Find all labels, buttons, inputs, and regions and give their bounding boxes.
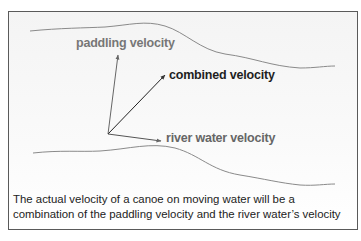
combined-velocity-arrow <box>108 75 165 134</box>
river-velocity-arrow <box>108 134 161 141</box>
river-water-velocity-label: river water velocity <box>166 131 275 145</box>
paddling-velocity-label: paddling velocity <box>76 36 175 50</box>
paddling-velocity-arrow <box>108 55 118 134</box>
lower-riverbank <box>33 146 335 186</box>
combined-velocity-label: combined velocity <box>169 68 275 82</box>
diagram-caption: The actual velocity of a canoe on moving… <box>13 192 355 222</box>
